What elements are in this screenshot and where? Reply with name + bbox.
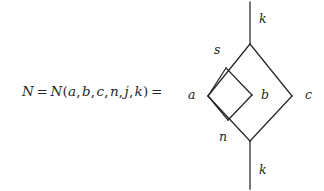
label-bottom-leg-k: k	[259, 164, 267, 177]
edge-right-bottom	[250, 96, 292, 141]
edge-top-right	[250, 44, 292, 96]
label-vertex-a: a	[188, 89, 195, 102]
edge-inner-lower-right	[228, 95, 252, 120]
label-edge-b: b	[261, 89, 269, 102]
label-edge-s: s	[214, 44, 220, 57]
label-edge-n: n	[219, 131, 227, 144]
spin-network-diagram: k s a b c n k	[0, 0, 324, 191]
edge-inner-upper-left	[208, 68, 226, 96]
label-top-leg-k: k	[259, 13, 267, 26]
diagram-strands	[0, 0, 324, 191]
edge-inner-lower-left	[208, 96, 228, 120]
edge-inner-upper-right	[226, 68, 252, 95]
label-vertex-c: c	[305, 89, 312, 102]
figure-canvas: N=N(a,b,c,n,j,k)= k	[0, 0, 324, 191]
